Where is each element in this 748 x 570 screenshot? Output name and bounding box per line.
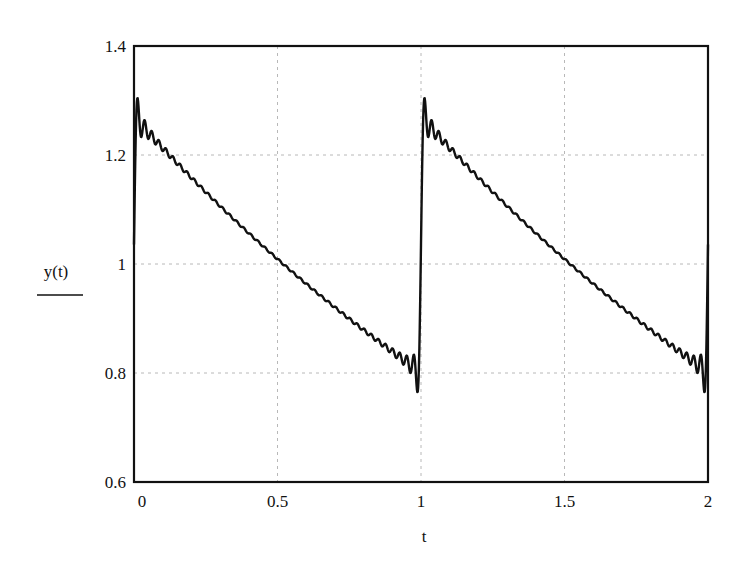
x-axis-label: t	[422, 527, 427, 546]
x-tick-label: 1.5	[554, 492, 575, 511]
line-chart: 0.60.811.21.4 00.511.52 y(t) t	[0, 0, 748, 570]
y-tick-label: 1.2	[105, 146, 126, 165]
y-axis-tick-labels: 0.60.811.21.4	[105, 37, 127, 492]
y-axis-label: y(t)	[44, 262, 69, 281]
y-tick-label: 0.6	[105, 473, 126, 492]
x-tick-label: 0	[138, 492, 147, 511]
x-tick-label: 0.5	[267, 492, 288, 511]
x-axis-tick-labels: 00.511.52	[138, 492, 713, 511]
x-tick-label: 2	[704, 492, 713, 511]
y-tick-label: 0.8	[105, 364, 126, 383]
x-tick-label: 1	[417, 492, 426, 511]
y-tick-label: 1	[118, 255, 127, 274]
y-tick-label: 1.4	[105, 37, 127, 56]
